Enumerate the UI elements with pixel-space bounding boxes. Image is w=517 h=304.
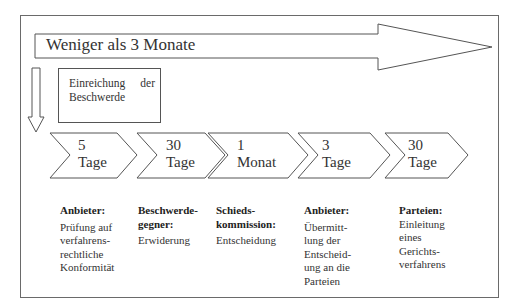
phase-5-description: Einleitung eines Gerichts-verfahrens <box>399 218 451 272</box>
phase-2-duration: 30Tage <box>166 137 195 171</box>
phase-1-duration: 5Tage <box>78 137 107 171</box>
phase-5-step: Parteien: Einleitung eines Gerichts-verf… <box>399 204 451 272</box>
phase-2-actor: Beschwerde-gegner: <box>138 204 200 231</box>
phase-2-description: Erwiderung <box>138 234 200 248</box>
phase-4-step: Anbieter: Übermitt-lung der Entscheid-un… <box>304 204 354 288</box>
phase-4-description: Übermitt-lung der Entscheid-ung an die P… <box>304 221 354 289</box>
phase-3-step: Schieds-kommission: Entscheidung <box>216 204 282 248</box>
phase-3-actor: Schieds-kommission: <box>216 204 282 231</box>
phase-4-duration: 3Tage <box>322 137 351 171</box>
phase-4-actor: Anbieter: <box>304 204 354 218</box>
phase-3-description: Entscheidung <box>216 234 282 248</box>
phase-5-duration: 30Tage <box>408 137 437 171</box>
down-arrow-icon <box>28 68 44 132</box>
phase-1-step: Anbieter: Prüfung auf verfahrens-rechtli… <box>60 204 126 275</box>
phase-1-description: Prüfung auf verfahrens-rechtliche Konfor… <box>60 221 126 275</box>
phase-5-actor: Parteien: <box>399 204 451 218</box>
phase-2-step: Beschwerde-gegner: Erwiderung <box>138 204 200 248</box>
phase-3-duration: 1Monat <box>237 137 276 171</box>
submission-label: Einreichung der Beschwerde <box>69 76 155 104</box>
phase-1-actor: Anbieter: <box>60 204 126 218</box>
total-duration-label: Weniger als 3 Monate <box>46 35 195 55</box>
